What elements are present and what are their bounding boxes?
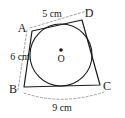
dimension-label-ad: 5 cm — [42, 8, 62, 19]
vertex-label-c: C — [103, 79, 111, 93]
vertex-label-b: B — [9, 82, 17, 96]
dimension-label-ab: 6 cm — [10, 51, 30, 62]
vertex-label-a: A — [18, 21, 27, 35]
dimension-label-bc: 9 cm — [52, 102, 72, 113]
center-label-o: O — [57, 53, 64, 64]
geometry-canvas: A D C B O 5 cm 6 cm 9 cm — [0, 0, 125, 118]
dimension-line-bc — [24, 92, 104, 99]
center-dot-o — [59, 48, 63, 52]
vertex-label-d: D — [85, 6, 94, 20]
geometry-figure: A D C B O 5 cm 6 cm 9 cm — [0, 0, 125, 118]
